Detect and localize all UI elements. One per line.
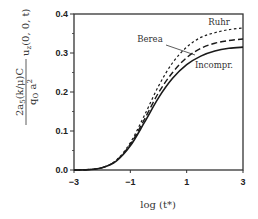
svg-text:uz(0, 0, t): uz(0, 0, t) — [20, 8, 33, 56]
ylabel-numerator-rest: (k/μ)C — [14, 68, 25, 100]
curves — [74, 28, 243, 170]
line-chart: 0.00.10.20.30.4 −3−113 RuhrBereaIncompr.… — [0, 0, 258, 219]
x-tick-label: 1 — [184, 177, 189, 187]
y-tick-label: 0.4 — [55, 9, 68, 19]
ylabel-numerator: 2a — [14, 104, 25, 116]
ylabel-denominator-sup: 2 — [26, 79, 34, 83]
x-axis-title: log (t*) — [140, 199, 176, 210]
annotation-incompr: Incompr. — [195, 60, 233, 70]
y-tick-label: 0.0 — [55, 165, 68, 175]
svg-text:qO a2: qO a2 — [26, 79, 40, 105]
y-tick-label: 0.2 — [55, 87, 68, 97]
curve-berea — [74, 39, 243, 170]
x-tick-label: −3 — [69, 177, 79, 187]
ylabel-suffix-rest: (0, 0, t) — [20, 8, 31, 45]
annotation-ruhr: Ruhr — [208, 17, 230, 27]
curve-annotations: RuhrBereaIncompr. — [137, 17, 233, 70]
annotation-leader-line — [166, 45, 195, 55]
y-tick-label: 0.3 — [55, 48, 68, 58]
y-axis-ticks: 0.00.10.20.30.4 — [55, 9, 74, 175]
x-axis-ticks: −3−113 — [69, 170, 246, 187]
y-tick-label: 0.1 — [55, 126, 68, 136]
x-tick-label: 3 — [240, 177, 245, 187]
y-axis-title: 2a5(k/μ)C qO a2 uz(0, 0, t) — [14, 8, 40, 125]
svg-text:2a5(k/μ)C: 2a5(k/μ)C — [14, 68, 27, 117]
annotation-berea: Berea — [137, 34, 162, 44]
ylabel-denominator-rest: a — [27, 84, 38, 93]
x-tick-label: −1 — [125, 177, 135, 187]
